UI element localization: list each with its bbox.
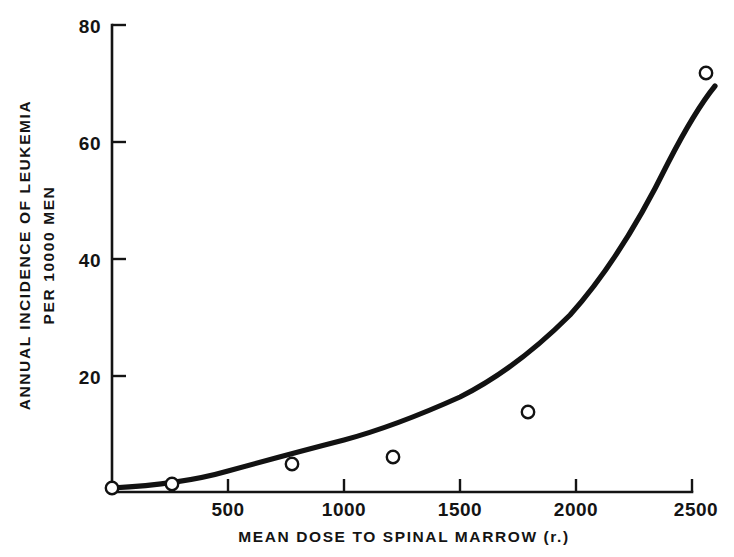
data-point-dose-1200 [387, 451, 399, 463]
y-tick-label-60: 60 [79, 133, 101, 154]
y-axis-title: ANNUAL INCIDENCE OF LEUKEMIA PER 10000 M… [16, 100, 57, 411]
fitted-dose-response-curve [112, 86, 715, 488]
leukemia-dose-response-chart: 80 60 40 20 500 1000 1500 2000 2500 [0, 0, 734, 557]
y-tick-label-20: 20 [79, 367, 101, 388]
data-point-dose-1790 [522, 406, 534, 418]
data-point-dose-0 [106, 482, 118, 494]
x-axis-ticks [228, 479, 692, 492]
y-axis-tick-labels: 80 60 40 20 [79, 16, 101, 388]
x-tick-label-1500: 1500 [438, 499, 482, 520]
x-tick-label-2500: 2500 [674, 499, 718, 520]
x-tick-label-1000: 1000 [322, 499, 366, 520]
y-axis-title-line-1: ANNUAL INCIDENCE OF LEUKEMIA [16, 100, 33, 411]
data-point-markers [106, 67, 712, 494]
x-tick-label-500: 500 [211, 499, 244, 520]
data-point-dose-2560 [700, 67, 712, 79]
y-axis-ticks [112, 25, 126, 376]
y-axis-title-line-2: PER 10000 MEN [40, 186, 57, 325]
y-tick-label-40: 40 [79, 250, 101, 271]
data-point-dose-750 [286, 458, 298, 470]
x-tick-label-2000: 2000 [554, 499, 598, 520]
x-axis-title: MEAN DOSE TO SPINAL MARROW (r.) [238, 528, 569, 545]
chart-figure: 80 60 40 20 500 1000 1500 2000 2500 [0, 0, 734, 557]
y-tick-label-80: 80 [79, 16, 101, 37]
x-axis-tick-labels: 500 1000 1500 2000 2500 [211, 499, 718, 520]
data-point-dose-260 [166, 478, 178, 490]
